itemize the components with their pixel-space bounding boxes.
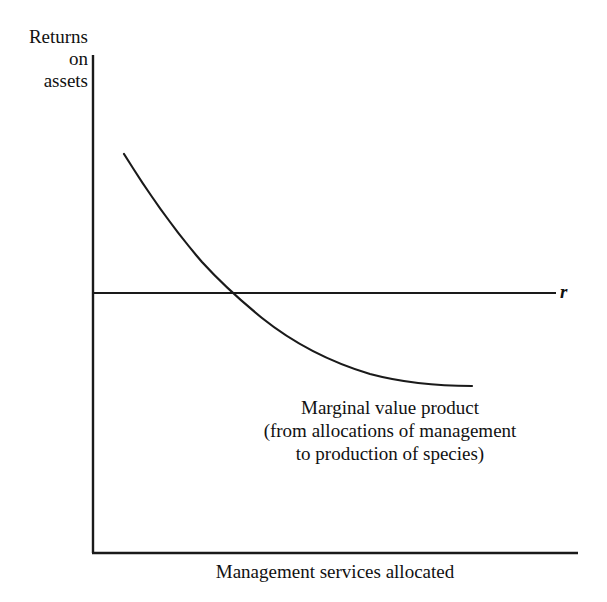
figure-container: Returns on assets r Marginal value produ… (0, 0, 607, 602)
marginal-value-product-curve (124, 154, 472, 386)
y-axis-label-line-1: Returns (8, 26, 88, 48)
y-axis-label: Returns on assets (8, 26, 88, 92)
y-axis-label-line-2: on (8, 48, 88, 70)
y-axis-label-line-3: assets (8, 70, 88, 92)
r-axis-variable-label: r (560, 281, 567, 303)
chart-canvas (0, 0, 607, 602)
curve-annotation-line-1: Marginal value product (190, 396, 590, 419)
curve-annotation-line-2: (from allocations of management (190, 419, 590, 442)
curve-annotation-line-3: to production of species) (190, 442, 590, 465)
curve-annotation: Marginal value product (from allocations… (190, 396, 590, 465)
x-axis-label: Management services allocated (92, 561, 578, 583)
